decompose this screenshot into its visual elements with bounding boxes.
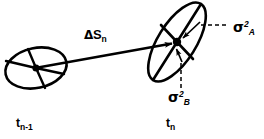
error-ellipse-current-group [137, 0, 217, 90]
ellipse-current-center-dot [173, 38, 181, 46]
sigma-b-arrow [177, 49, 183, 62]
figure-canvas: ΔSn σ2A σ2B tn-1 tn [0, 0, 264, 139]
time-current-subscript: n [170, 122, 175, 132]
time-previous-subscript: n-1 [20, 122, 33, 132]
time-label-current: tn [166, 117, 175, 129]
sigma-b-subscript: B [184, 97, 190, 107]
sigma-a-label: σ2A [233, 20, 255, 34]
time-label-previous: tn-1 [16, 117, 33, 129]
diagram-svg [0, 0, 264, 139]
sigma-a-superscript: 2 [244, 19, 249, 29]
sigma-b-label: σ2B [168, 90, 190, 104]
displacement-subscript: n [102, 34, 107, 44]
sigma-a-glyph: σ [233, 19, 244, 35]
displacement-symbol: S [93, 27, 101, 42]
spoke-east [36, 68, 64, 74]
displacement-label: ΔSn [84, 28, 107, 41]
delta-glyph: Δ [84, 28, 93, 42]
sigma-b-glyph: σ [168, 89, 179, 105]
error-ellipse-previous-group [2, 42, 71, 94]
spoke-west [6, 61, 36, 68]
sigma-b-superscript: 2 [179, 89, 184, 99]
sigma-a-subscript: A [249, 27, 255, 37]
